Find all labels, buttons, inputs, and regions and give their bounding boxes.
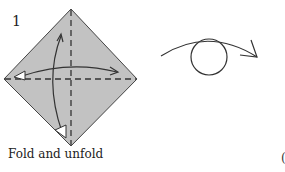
- step-caption: Fold and unfold: [8, 147, 103, 161]
- next-step-text-fragment: (: [281, 151, 285, 165]
- turn-over-icon: [161, 39, 257, 75]
- step-number: 1: [12, 13, 21, 29]
